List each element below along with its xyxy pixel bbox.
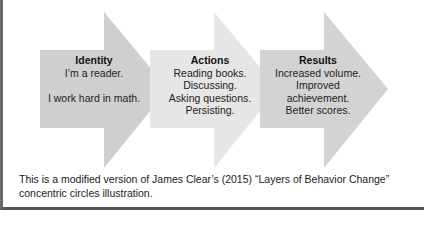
identity-label: Identity I’m a reader. I work hard in ma…	[44, 54, 144, 104]
figure-caption: This is a modified version of James Clea…	[19, 172, 419, 200]
actions-line: Reading books.	[160, 67, 260, 80]
identity-line	[44, 79, 144, 92]
results-line: achievement.	[266, 92, 370, 105]
identity-title: Identity	[44, 54, 144, 67]
results-line: Increased volume.	[266, 67, 370, 80]
caption-line-2: concentric circles illustration.	[19, 186, 419, 200]
caption-line-1: This is a modified version of James Clea…	[19, 172, 419, 186]
results-label: Results Increased volume. Improved achie…	[266, 54, 370, 117]
actions-label: Actions Reading books. Discussing. Askin…	[160, 54, 260, 117]
actions-title: Actions	[160, 54, 260, 67]
actions-line: Asking questions.	[160, 92, 260, 105]
actions-line: Discussing.	[160, 79, 260, 92]
results-line: Improved	[266, 79, 370, 92]
identity-line: I’m a reader.	[44, 67, 144, 80]
identity-line: I work hard in math.	[44, 92, 144, 105]
results-title: Results	[266, 54, 370, 67]
results-line: Better scores.	[266, 104, 370, 117]
actions-line: Persisting.	[160, 104, 260, 117]
